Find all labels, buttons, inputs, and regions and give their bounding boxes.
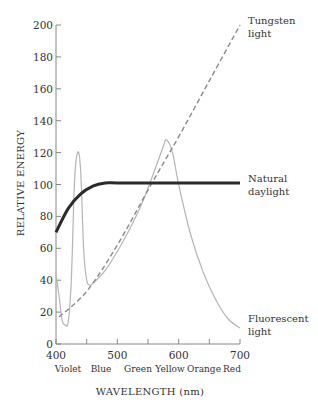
color-band-label: Violet [54, 364, 82, 374]
y-tick-label: 100 [33, 179, 53, 191]
tungsten-label: Tungsten [248, 15, 296, 26]
tungsten-label-line2: light [248, 28, 271, 39]
fluorescent-label: Fluorescent [248, 313, 308, 324]
fluorescent-label-line2: light [248, 326, 271, 337]
x-tick-label: 500 [107, 349, 127, 361]
daylight-label: Natural [248, 173, 287, 184]
spectral-energy-chart: 020406080100120140160180200 400500600700… [0, 0, 318, 413]
y-axis-title: RELATIVE ENERGY [15, 130, 26, 236]
x-axis: 400500600700 [46, 339, 250, 361]
y-axis: 020406080100120140160180200 [33, 19, 61, 350]
y-tick-label: 180 [33, 51, 53, 63]
color-band-label: Red [223, 364, 241, 374]
y-tick-label: 60 [40, 242, 53, 254]
color-band-label: Yellow [154, 364, 185, 374]
fluorescent-light-curve [56, 140, 240, 329]
y-tick-label: 40 [40, 274, 53, 286]
x-axis-title: WAVELENGTH (nm) [96, 386, 205, 397]
plot-area [56, 25, 240, 328]
color-band-label: Green [124, 364, 152, 374]
x-tick-label: 700 [230, 349, 250, 361]
y-tick-label: 20 [40, 306, 53, 318]
color-band-labels: VioletBlueGreenYellowOrangeRed [54, 364, 241, 374]
y-tick-label: 160 [33, 83, 53, 95]
y-tick-label: 80 [40, 210, 53, 222]
x-tick-label: 400 [46, 349, 66, 361]
daylight-label-line2: daylight [248, 186, 289, 197]
y-tick-label: 120 [33, 147, 53, 159]
color-band-label: Blue [91, 364, 112, 374]
color-band-label: Orange [187, 364, 221, 374]
y-tick-label: 200 [33, 19, 53, 31]
y-tick-label: 140 [33, 115, 53, 127]
x-tick-label: 600 [169, 349, 189, 361]
